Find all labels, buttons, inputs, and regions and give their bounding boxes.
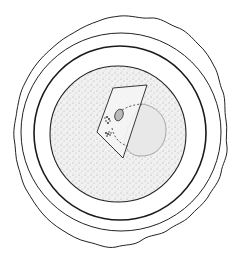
illustration-canvas: [0, 0, 240, 265]
egg-cell-illustration: Pen-and-ink stippled illustration of an …: [0, 0, 240, 265]
